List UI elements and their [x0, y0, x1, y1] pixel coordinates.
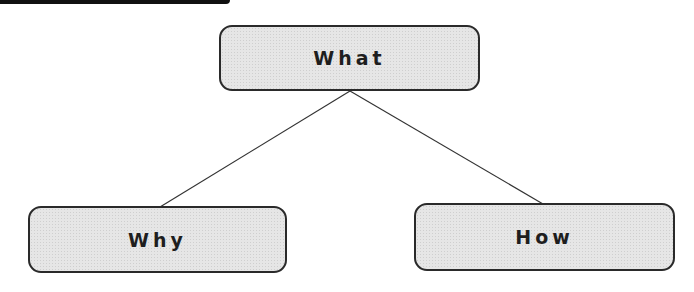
- node-how-label: How: [515, 226, 574, 248]
- diagram-canvas: What Why How: [0, 0, 694, 292]
- edge-what-why: [160, 91, 350, 207]
- node-why[interactable]: Why: [28, 206, 287, 273]
- node-how[interactable]: How: [414, 203, 675, 271]
- node-what-label: What: [313, 47, 385, 69]
- node-why-label: Why: [128, 229, 187, 251]
- edge-what-how: [350, 91, 543, 204]
- node-what[interactable]: What: [219, 25, 480, 91]
